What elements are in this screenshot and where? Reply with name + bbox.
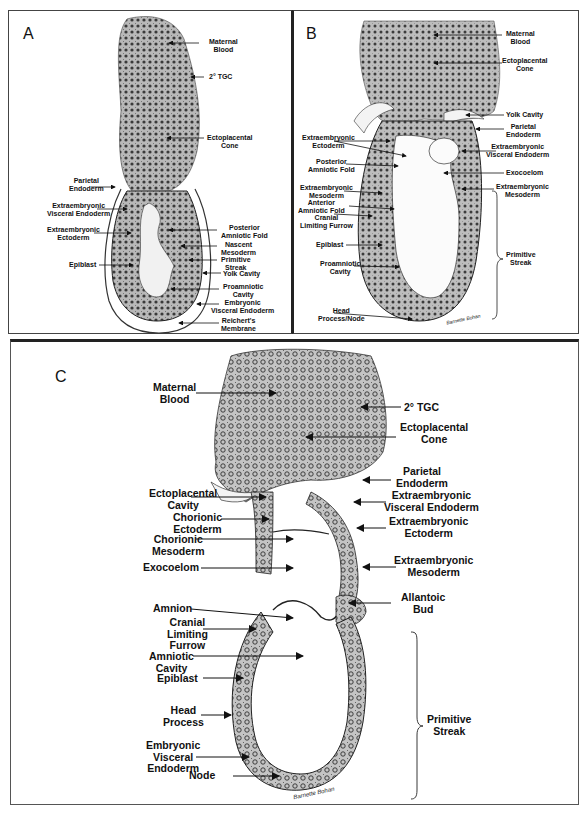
label-c-cranial-limiting-furrow: Cranial Limiting Furrow bbox=[167, 617, 208, 652]
panel-a: A Maternal Blood bbox=[8, 10, 293, 334]
label-a-proamniotic-cavity: Proamniotic Cavity bbox=[223, 283, 263, 298]
label-a-nascent-mesoderm: Nascent Mesoderm bbox=[221, 241, 256, 256]
label-b-extraembryonic-visceral-endoderm: Extraembryonic Visceral Endoderm bbox=[486, 143, 549, 158]
label-b-maternal-blood: Maternal Blood bbox=[506, 30, 535, 45]
label-a-yolk-cavity: Yolk Cavity bbox=[223, 270, 260, 278]
label-c-parietal-endoderm: Parietal Endoderm bbox=[396, 466, 448, 489]
label-c-extraembryonic-visceral-endoderm: Extraembryonic Visceral Endoderm bbox=[384, 490, 479, 513]
label-b-primitive-streak: Primitive Streak bbox=[506, 251, 536, 266]
label-c-extraembryonic-ectoderm: Extraembryonic Ectoderm bbox=[389, 516, 468, 539]
label-b-exocoelom: Exocoelom bbox=[506, 169, 543, 177]
label-b-posterior-amniotic-fold: Posterior Amniotic Fold bbox=[308, 158, 355, 173]
label-b-parietal-endoderm: Parietal Endoderm bbox=[506, 123, 541, 138]
label-b-extraembryonic-mesoderm-left: Extraembryonic Mesoderm bbox=[300, 184, 353, 199]
label-b-yolk-cavity: Yolk Cavity bbox=[506, 111, 543, 119]
label-b-ectoplacental-cone: Ectoplacental Cone bbox=[502, 57, 548, 72]
label-c-head-process: Head Process bbox=[163, 705, 204, 728]
label-a-parietal-endoderm: Parietal Endoderm bbox=[69, 177, 104, 192]
label-c-ectoplacental-cavity: Ectoplacental Cavity bbox=[149, 488, 217, 511]
label-b-head-process-node: Head Process/Node bbox=[318, 307, 365, 322]
label-c-chorionic-ectoderm: Chorionic Ectoderm bbox=[173, 512, 222, 535]
label-a-2-tgc: 2° TGC bbox=[209, 73, 232, 81]
label-b-cranial-limiting-furrow: Cranial Limiting Furrow bbox=[300, 214, 353, 229]
label-a-extraembryonic-visceral-endoderm: Extraembryonic Visceral Endoderm bbox=[47, 202, 110, 217]
label-a-posterior-amniotic-fold: Posterior Amniotic Fold bbox=[221, 224, 268, 239]
label-c-amniotic-cavity: Amniotic Cavity bbox=[149, 651, 194, 674]
label-b-proamniotic-cavity: Proamniotic Cavity bbox=[320, 260, 360, 275]
label-a-maternal-blood: Maternal Blood bbox=[209, 38, 238, 53]
label-c-ectoplacental-cone: Ectoplacental Cone bbox=[400, 422, 468, 445]
label-c-maternal-blood: Maternal Blood bbox=[153, 382, 196, 405]
panel-c: C bbox=[10, 339, 579, 805]
label-c-primitive-streak: Primitive Streak bbox=[427, 714, 471, 737]
label-a-reicherts-membrane: Reichert's Membrane bbox=[221, 317, 256, 332]
label-c-2-tgc: 2° TGC bbox=[404, 402, 439, 414]
label-a-extraembryonic-ectoderm: Extraembryonic Ectoderm bbox=[47, 226, 100, 241]
label-c-exocoelom: Exocoelom bbox=[143, 562, 199, 574]
embryo-section-c-illustration bbox=[11, 342, 580, 808]
label-a-epiblast: Epiblast bbox=[69, 261, 96, 269]
label-b-anterior-amniotic-fold: Anterior Amniotic Fold bbox=[298, 199, 345, 214]
label-a-embryonic-visceral-endoderm: Embryonic Visceral Endoderm bbox=[211, 299, 274, 314]
label-c-amnion: Amnion bbox=[153, 603, 192, 615]
label-a-ectoplacental-cone: Ectoplacental Cone bbox=[207, 134, 253, 149]
label-c-epiblast: Epiblast bbox=[157, 673, 198, 685]
label-c-allantoic-bud: Allantoic Bud bbox=[401, 592, 445, 615]
label-b-extraembryonic-ectoderm: Extraembryonic Ectoderm bbox=[302, 134, 355, 149]
panel-b: B bbox=[292, 10, 579, 334]
label-b-epiblast: Epiblast bbox=[316, 241, 343, 249]
label-b-extraembryonic-mesoderm-right: Extraembryonic Mesoderm bbox=[496, 183, 549, 198]
label-c-chorionic-mesoderm: Chorionic Mesoderm bbox=[152, 534, 205, 557]
label-c-extraembryonic-mesoderm: Extraembryonic Mesoderm bbox=[394, 555, 473, 578]
label-c-node: Node bbox=[189, 770, 215, 782]
